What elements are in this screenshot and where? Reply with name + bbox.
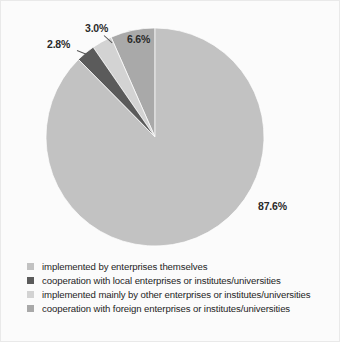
pie-slice-implemented-by-enterprises-themselves[interactable] (46, 28, 264, 246)
chart-legend: implemented by enterprises themselves co… (27, 260, 327, 316)
pie-slice-group (46, 28, 264, 246)
slice-value-label-implemented-by-enterprises-themselves: 87.6% (258, 200, 287, 212)
pie-chart-figure: 87.6% 6.6% 3.0% 2.8% implemented by ente… (0, 0, 340, 342)
legend-swatch-icon (27, 305, 34, 312)
pie-plot-area: 87.6% 6.6% 3.0% 2.8% (1, 1, 340, 256)
legend-swatch-icon (27, 277, 34, 284)
legend-item-label: implemented mainly by other enterprises … (42, 288, 311, 301)
legend-item-cooperation-with-foreign[interactable]: cooperation with foreign enterprises or … (27, 302, 327, 316)
legend-item-implemented-by-enterprises-themselves[interactable]: implemented by enterprises themselves (27, 260, 327, 274)
legend-item-label: cooperation with local enterprises or in… (42, 274, 281, 287)
legend-item-implemented-mainly-by-other[interactable]: implemented mainly by other enterprises … (27, 288, 327, 302)
slice-value-label-cooperation-with-foreign: 6.6% (127, 33, 150, 45)
slice-value-label-implemented-mainly-by-other: 3.0% (85, 22, 108, 34)
legend-swatch-icon (27, 263, 34, 270)
legend-item-label: cooperation with foreign enterprises or … (42, 302, 290, 315)
slice-value-label-cooperation-with-local: 2.8% (47, 38, 70, 50)
legend-item-cooperation-with-local[interactable]: cooperation with local enterprises or in… (27, 274, 327, 288)
legend-item-label: implemented by enterprises themselves (42, 260, 207, 273)
legend-swatch-icon (27, 291, 34, 298)
